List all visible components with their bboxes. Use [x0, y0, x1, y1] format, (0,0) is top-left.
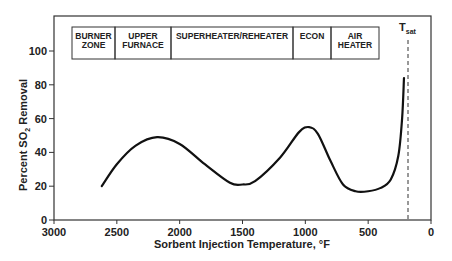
- y-tick-label: 40: [35, 146, 47, 158]
- y-tick-label: 20: [35, 180, 47, 192]
- x-tick-label: 500: [359, 226, 377, 238]
- y-tick-label: 60: [35, 113, 47, 125]
- x-axis-label: Sorbent Injection Temperature, °F: [154, 238, 330, 250]
- y-tick-label: 80: [35, 79, 47, 91]
- y-axis-label: Percent SO2 Removal: [17, 79, 31, 191]
- x-tick-label: 1000: [293, 226, 317, 238]
- zone-burner-line2: ZONE: [82, 40, 106, 50]
- zone-header: BURNER ZONE UPPER FURNACE SUPERHEATER/RE…: [72, 27, 379, 59]
- tsat-label: Tsat: [399, 21, 417, 35]
- zone-upper-furnace-line2: FURNACE: [122, 40, 164, 50]
- x-tick-label: 1500: [230, 226, 254, 238]
- x-tick-label: 3000: [42, 226, 66, 238]
- zone-econ: ECON: [300, 31, 325, 41]
- zone-superheater: SUPERHEATER/REHEATER: [176, 31, 288, 41]
- x-tick-label: 0: [428, 226, 434, 238]
- y-axis-ticks: 020406080100: [29, 45, 54, 226]
- x-axis-ticks: 300025002000150010005000: [42, 220, 434, 238]
- y-tick-label: 0: [41, 214, 47, 226]
- x-tick-label: 2000: [167, 226, 191, 238]
- so2-removal-curve: [102, 78, 404, 192]
- so2-removal-chart: BURNER ZONE UPPER FURNACE SUPERHEATER/RE…: [0, 0, 452, 261]
- y-tick-label: 100: [29, 45, 47, 57]
- x-tick-label: 2500: [105, 226, 129, 238]
- zone-air-heater-line2: HEATER: [338, 40, 372, 50]
